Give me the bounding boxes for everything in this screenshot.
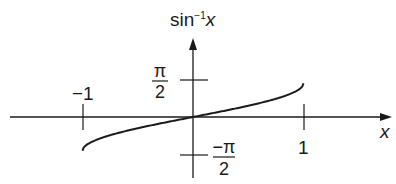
y-axis-label-var: x — [205, 9, 217, 30]
y-axis-arrow-icon — [189, 38, 197, 50]
y-tick-label-neg-denominator: 2 — [219, 159, 229, 179]
x-axis-label: x — [379, 121, 391, 142]
x-tick-label-pos1: 1 — [298, 137, 309, 158]
y-tick-label-neg-numerator: −π — [213, 137, 236, 157]
y-axis-label-base: sin — [170, 9, 194, 30]
arcsin-chart: sin−1x x −1 1 π 2 −π 2 — [0, 0, 396, 184]
y-axis-label: sin−1x — [170, 9, 217, 30]
x-tick-label-neg1: −1 — [72, 83, 94, 104]
x-axis-arrow-icon — [380, 113, 392, 121]
y-tick-label-pos-denominator: 2 — [155, 82, 165, 102]
y-tick-label-pos-numerator: π — [154, 61, 166, 81]
y-axis-label-sup: −1 — [194, 10, 206, 21]
